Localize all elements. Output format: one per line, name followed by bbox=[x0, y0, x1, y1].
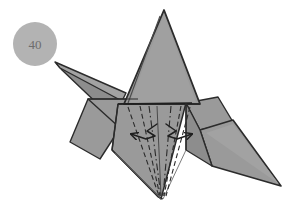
step-number-badge: 40 bbox=[13, 22, 57, 66]
central-body-panel bbox=[112, 103, 186, 199]
origami-illustration: 40 bbox=[0, 0, 284, 205]
step-number-label: 40 bbox=[29, 37, 42, 52]
origami-model bbox=[55, 10, 281, 199]
base-horizontal-crease bbox=[118, 103, 192, 104]
origami-diagram: 40 bbox=[0, 0, 284, 205]
top-point-highlight bbox=[130, 14, 196, 102]
